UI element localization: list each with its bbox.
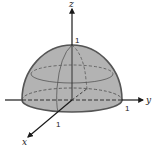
z-tick-1: 1: [75, 36, 80, 45]
y-tick-1: 1: [125, 104, 130, 113]
x-axis-label: x: [22, 137, 27, 147]
x-tick-1: 1: [56, 120, 61, 129]
z-axis-label: z: [68, 0, 74, 9]
hemisphere: [22, 45, 122, 112]
hemisphere-diagram: z 1 y 1 x 1: [0, 0, 154, 150]
y-axis-label: y: [145, 95, 152, 105]
